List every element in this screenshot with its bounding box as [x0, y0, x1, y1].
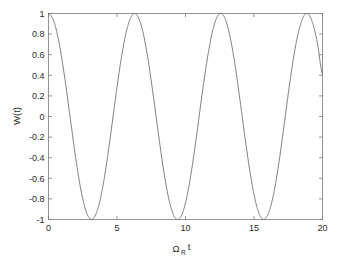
y-axis-title: W(t) [11, 107, 22, 125]
y-tick-label-4: -0.2 [29, 132, 45, 142]
x-tick-label-4: 20 [317, 223, 327, 233]
x-tick-label-1: 5 [114, 223, 119, 233]
y-tick-label-7: 0.4 [32, 71, 45, 81]
y-tick-label-5: 0 [39, 112, 44, 122]
x-axis-title-subscript: R [181, 249, 186, 256]
y-tick-label-9: 0.8 [32, 29, 45, 39]
x-axis-title-omega: Ω [172, 243, 179, 254]
y-tick-label-10: 1 [39, 9, 44, 19]
x-tick-label-3: 15 [249, 223, 259, 233]
y-tick-label-0: -1 [36, 215, 44, 225]
y-tick-label-8: 0.6 [32, 50, 45, 60]
y-tick-label-3: -0.4 [29, 153, 45, 163]
x-axis-title-variable: t [188, 241, 191, 252]
plot-svg: 05101520-1-0.8-0.6-0.4-0.200.20.40.60.81… [0, 0, 341, 262]
x-tick-label-2: 10 [180, 223, 190, 233]
y-tick-label-2: -0.6 [29, 174, 45, 184]
y-tick-label-6: 0.2 [32, 91, 45, 101]
y-axis-title-group: W(t) [11, 107, 22, 125]
figure-background [0, 0, 341, 262]
figure-canvas: 05101520-1-0.8-0.6-0.4-0.200.20.40.60.81… [0, 0, 341, 262]
x-tick-label-0: 0 [46, 223, 51, 233]
y-tick-label-1: -0.8 [29, 194, 45, 204]
